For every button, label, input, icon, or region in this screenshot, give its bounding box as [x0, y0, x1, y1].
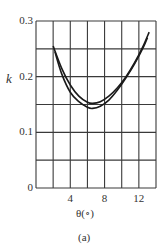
x-axis-label: θ(∘)	[76, 208, 94, 219]
y-tick-label: 0.3	[3, 15, 33, 26]
y-axis-label: k	[6, 72, 12, 85]
figure-caption: (a)	[78, 232, 90, 243]
data-curves	[53, 32, 149, 108]
grid-lines	[36, 21, 156, 188]
x-tick-label: 8	[95, 193, 115, 204]
y-tick-label: 0	[3, 182, 33, 193]
y-tick-label: 0.1	[3, 126, 33, 137]
x-tick-label: 4	[60, 193, 80, 204]
curve-0	[53, 32, 149, 103]
x-tick-label: 12	[129, 193, 149, 204]
